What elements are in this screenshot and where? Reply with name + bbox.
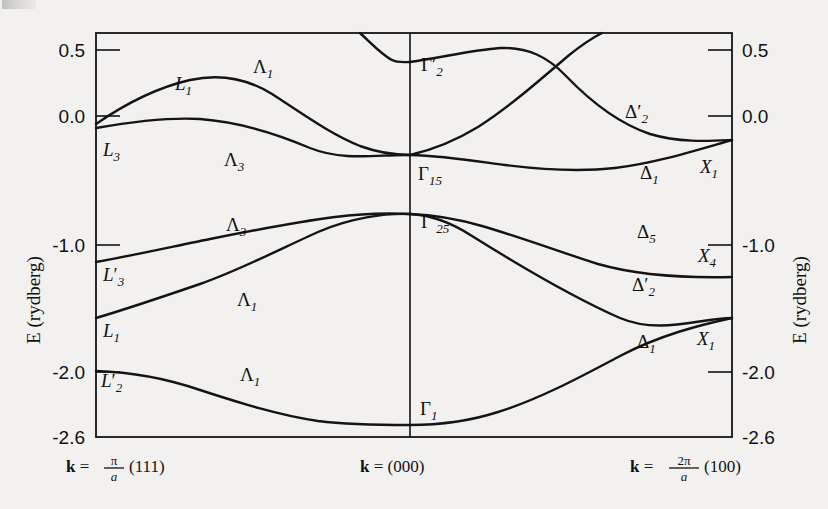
band-label-L2prime: L′2 bbox=[100, 370, 123, 395]
right-tick-labels: 0.5 0.0 -1.0 -2.0 -2.6 bbox=[742, 40, 775, 448]
band-label-Lambda1-b: Λ1 bbox=[237, 289, 257, 314]
left-tick-4: -2.6 bbox=[52, 427, 85, 448]
band-label-Delta5: Δ5 bbox=[637, 221, 656, 246]
band-structure-plot: 0.5 0.0 -1.0 -2.0 -2.6 0.5 0.0 -1.0 -2.0… bbox=[0, 0, 828, 509]
band-label-Delta1-upper: Δ1 bbox=[640, 162, 659, 187]
kpoint-label-left: k = π a (111) bbox=[66, 453, 165, 484]
right-tick-1: 0.0 bbox=[742, 106, 768, 127]
band-structure-figure: 0.5 0.0 -1.0 -2.0 -2.6 0.5 0.0 -1.0 -2.0… bbox=[0, 0, 828, 509]
band-label-Lambda1-a: Λ1 bbox=[253, 56, 273, 81]
band-label-L3: L3 bbox=[102, 139, 121, 164]
kpoint-left-numerator: π bbox=[111, 453, 118, 468]
band-label-Lambda1-c: Λ1 bbox=[240, 364, 260, 389]
left-tick-labels: 0.5 0.0 -1.0 -2.0 -2.6 bbox=[52, 40, 85, 448]
kpoint-label-center: k = (000) bbox=[360, 457, 424, 476]
svg-text:k =: k = bbox=[66, 457, 89, 476]
band-label-X1-lower: X1 bbox=[696, 328, 715, 353]
band-label-group: L1 L3 Λ1 Λ3 Γ′2 Γ15 Δ′2 Δ1 X1 Λ3 Γ′25 Δ5… bbox=[100, 54, 718, 423]
band-label-L3prime: L′3 bbox=[102, 264, 125, 289]
band-Gamma15-rise bbox=[410, 33, 602, 155]
left-axis-title: E (rydberg) bbox=[23, 256, 45, 344]
right-tick-4: -2.6 bbox=[742, 427, 775, 448]
band-L1-Lambda1-upper bbox=[96, 77, 410, 155]
svg-text:k = (000): k = (000) bbox=[360, 457, 424, 476]
band-label-Delta2prime-upper: Δ′2 bbox=[625, 101, 648, 126]
svg-text:k =: k = bbox=[630, 457, 653, 476]
band-label-X1-upper: X1 bbox=[699, 156, 718, 181]
left-tick-3: -2.0 bbox=[52, 362, 85, 383]
kpoint-right-numerator: 2π bbox=[677, 453, 691, 468]
right-tick-3: -2.0 bbox=[742, 362, 775, 383]
kpoint-right-paren: (100) bbox=[704, 457, 741, 476]
band-L3-Gamma15-X1 bbox=[96, 119, 732, 171]
kpoint-left-denominator: a bbox=[111, 469, 118, 484]
kpoint-label-right: k = 2π a (100) bbox=[630, 453, 741, 484]
left-tick-0: 0.5 bbox=[59, 40, 85, 61]
band-label-Lambda3-a: Λ3 bbox=[224, 149, 245, 174]
band-label-Gamma15: Γ15 bbox=[418, 163, 442, 188]
right-axis-title: E (rydberg) bbox=[789, 256, 811, 344]
band-label-L1-lower: L1 bbox=[102, 320, 120, 345]
left-tick-1: 0.0 bbox=[59, 106, 85, 127]
kpoint-center-paren: (000) bbox=[388, 457, 425, 476]
band-label-X4: X4 bbox=[697, 245, 717, 270]
band-label-Gamma25prime: Γ′25 bbox=[421, 211, 450, 236]
band-label-Delta2prime-lower: Δ′2 bbox=[632, 274, 655, 299]
kpoint-right-denominator: a bbox=[681, 469, 688, 484]
right-tick-2: -1.0 bbox=[742, 235, 775, 256]
band-label-L1-upper: L1 bbox=[174, 73, 192, 98]
band-Gamma2prime-Delta2prime-X1 bbox=[410, 48, 732, 141]
band-label-Gamma1: Γ1 bbox=[420, 398, 437, 423]
right-tick-0: 0.5 bbox=[742, 40, 768, 61]
band-label-Delta1-lower: Δ1 bbox=[637, 331, 656, 356]
left-tick-2: -1.0 bbox=[52, 235, 85, 256]
kpoint-left-paren: (111) bbox=[129, 457, 165, 476]
band-Gamma2prime-descent bbox=[360, 33, 410, 62]
